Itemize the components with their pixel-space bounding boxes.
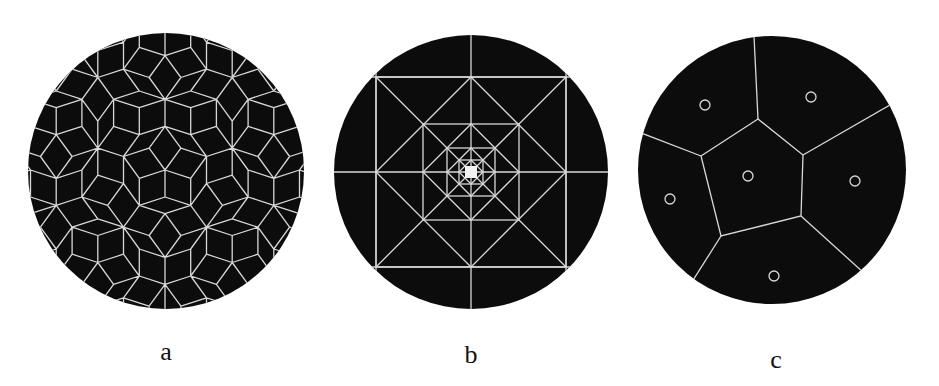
figure-canvas (0, 0, 939, 386)
panel-label-b: b (465, 342, 478, 368)
panel-label-a: a (160, 339, 172, 365)
panel-a-penrose-tiling (0, 0, 357, 363)
center-square (465, 166, 477, 178)
panel-c-voronoi-diagram (627, 11, 907, 304)
disk-c (638, 36, 906, 304)
panel-b-nested-squares (334, 35, 608, 309)
panel-label-c: c (770, 347, 782, 373)
